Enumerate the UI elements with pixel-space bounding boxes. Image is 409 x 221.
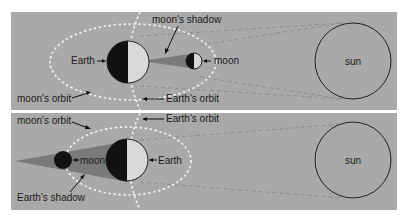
moons-shadow-label: moon's shadow	[152, 14, 222, 25]
moons-orbit-label: moon's orbit	[17, 93, 71, 104]
earths-orbit-label: Earth's orbit	[166, 93, 219, 104]
sun-label: sun	[345, 155, 361, 166]
moon-icon	[54, 151, 72, 169]
eclipse-diagram: sun Earth moon moon's shadow moon's orbi…	[0, 0, 409, 221]
earth-label: Earth	[158, 155, 182, 166]
earths-orbit-label: Earth's orbit	[166, 113, 219, 124]
earth-icon	[107, 41, 149, 83]
moon-label: moon	[80, 155, 105, 166]
earths-shadow-label: Earth's shadow	[17, 192, 86, 203]
sun-label: sun	[345, 56, 361, 67]
solar-eclipse-panel: sun Earth moon moon's shadow moon's orbi…	[11, 12, 397, 110]
earth-label: Earth	[71, 55, 95, 66]
moon-label: moon	[214, 55, 239, 66]
earth-icon	[106, 139, 148, 181]
lunar-eclipse-panel: sun moon Earth moon's orbit Earth's orbi…	[11, 113, 397, 210]
moons-orbit-label: moon's orbit	[17, 115, 71, 126]
moon-icon	[186, 53, 202, 69]
